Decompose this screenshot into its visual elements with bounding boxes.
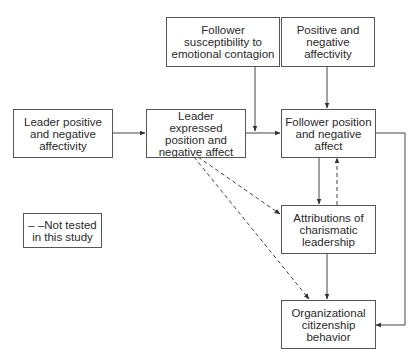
legend: – –Not tested in this study — [23, 213, 102, 248]
node-label: Positive and negative affectivity — [297, 24, 360, 60]
node-label: Follower susceptibility to emotional con… — [172, 24, 275, 60]
node-follower-susceptibility: Follower susceptibility to emotional con… — [166, 17, 280, 67]
node-attributions-charismatic-leadership: Attributions of charismatic leadership — [281, 205, 376, 254]
edge-expressed-to-attributions-dashed — [198, 157, 280, 214]
node-follower-affectivity: Positive and negative affectivity — [281, 17, 375, 67]
edge-follower-affect-to-ocb — [375, 133, 405, 325]
node-label: Leader expressed position and negative a… — [150, 110, 242, 158]
node-label: Follower position and negative affect — [285, 116, 371, 152]
node-leader-affectivity: Leader positive and negative affectivity — [13, 109, 113, 158]
node-label: Leader positive and negative affectivity — [24, 116, 102, 152]
node-organizational-citizenship-behavior: Organizational citizenship behavior — [281, 300, 376, 349]
node-follower-affect: Follower position and negative affect — [281, 109, 376, 158]
node-label: Organizational citizenship behavior — [291, 307, 365, 343]
legend-label: – –Not tested in this study — [28, 219, 96, 243]
node-label: Attributions of charismatic leadership — [293, 212, 363, 248]
node-leader-expressed-affect: Leader expressed position and negative a… — [146, 109, 246, 158]
